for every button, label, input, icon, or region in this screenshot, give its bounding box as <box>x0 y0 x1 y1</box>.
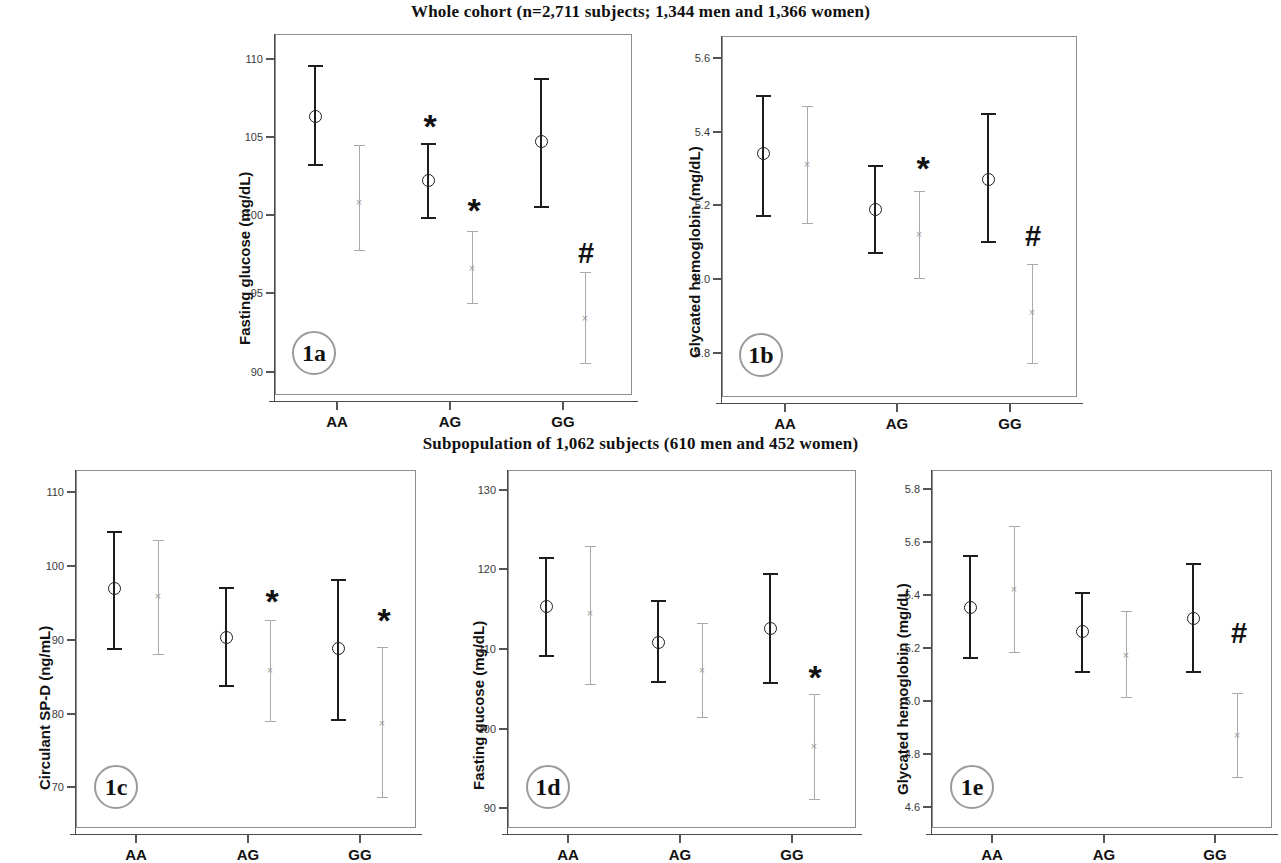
errorbar-cap-upper <box>963 555 978 557</box>
errorbar-cap-lower <box>1121 697 1132 698</box>
x-tick-label-AA: AA <box>981 846 1003 863</box>
marker-circle-1e-AG <box>1076 625 1089 638</box>
errorbar-cap-lower <box>1075 671 1090 673</box>
y-tick-label: 5.6 <box>905 536 920 548</box>
y-tick-mark <box>923 753 931 755</box>
errorbar-cap-lower <box>1009 652 1020 653</box>
y-axis-1e <box>931 470 932 835</box>
y-tick-label: 5.8 <box>905 483 920 495</box>
y-axis-title-1e: Glycated hemoglobin (mg/dL) <box>894 583 911 795</box>
marker-circle-1e-AA <box>964 601 977 614</box>
x-axis-1e <box>926 834 1278 835</box>
panel-1e: 4.64.85.05.25.45.65.8Glycated hemoglobin… <box>0 0 1281 863</box>
y-tick-mark <box>923 806 931 808</box>
x-tick-mark <box>991 834 993 843</box>
errorbar-cap-upper <box>1121 611 1132 612</box>
x-tick-mark <box>1214 834 1216 843</box>
y-tick-mark <box>923 594 931 596</box>
errorbar-cap-upper <box>1232 693 1243 694</box>
y-tick-mark <box>923 647 931 649</box>
errorbar-cap-upper <box>1186 563 1201 565</box>
errorbar-cap-lower <box>1232 777 1243 778</box>
x-tick-label-AG: AG <box>1093 846 1116 863</box>
marker-circle-1e-GG <box>1187 612 1200 625</box>
errorbar-cap-upper <box>1009 526 1020 527</box>
errorbar-cap-upper <box>1075 592 1090 594</box>
y-tick-mark <box>923 700 931 702</box>
x-tick-mark <box>1103 834 1105 843</box>
errorbar-cap-lower <box>963 657 978 659</box>
marker-x-1e-AA <box>1010 585 1019 594</box>
y-tick-mark <box>923 541 931 543</box>
x-tick-label-GG: GG <box>1203 846 1226 863</box>
panel-badge-1e: 1e <box>950 765 994 809</box>
y-tick-label: 4.6 <box>905 801 920 813</box>
errorbar-cap-lower <box>1186 671 1201 673</box>
marker-x-1e-AG <box>1122 651 1131 660</box>
y-tick-mark <box>923 488 931 490</box>
significance-hash-1e-0: # <box>1231 619 1247 648</box>
figure-root: Whole cohort (n=2,711 subjects; 1,344 me… <box>0 0 1281 863</box>
marker-x-1e-GG <box>1233 731 1242 740</box>
